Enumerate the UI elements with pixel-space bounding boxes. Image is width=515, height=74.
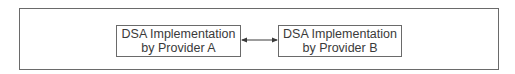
bidirectional-arrow-icon	[0, 0, 515, 74]
